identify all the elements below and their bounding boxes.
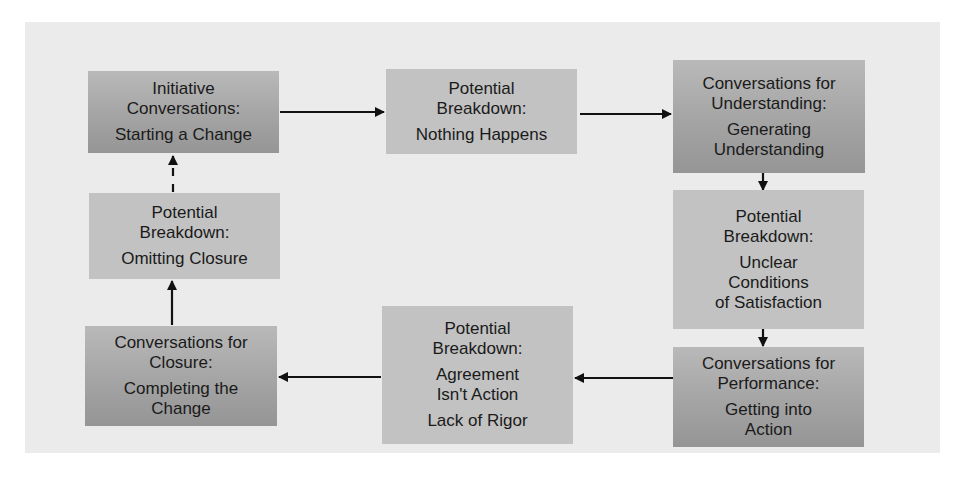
node-subtitle: Agreement — [436, 365, 519, 385]
node-subtitle: Change — [124, 399, 238, 419]
node-conversations-for-performance: Conversations for Performance: Getting i… — [673, 347, 864, 447]
node-title: Potential — [433, 319, 523, 339]
node-subtitle: Generating — [714, 120, 825, 140]
node-title: Performance: — [702, 374, 835, 394]
node-title: Breakdown: — [437, 99, 527, 119]
node-initiative-conversations: Initiative Conversations: Starting a Cha… — [88, 71, 279, 153]
node-title: Conversations: — [127, 99, 240, 119]
node-breakdown-omitting-closure: Potential Breakdown: Omitting Closure — [89, 193, 280, 279]
node-title: Conversations for — [702, 354, 835, 374]
node-conversations-for-closure: Conversations for Closure: Completing th… — [85, 326, 277, 426]
node-subtitle: Completing the — [124, 379, 238, 399]
node-title: Potential — [437, 79, 527, 99]
node-title: Conversations for — [702, 74, 835, 94]
node-subtitle: Isn't Action — [436, 385, 519, 405]
node-subtitle: Nothing Happens — [416, 125, 547, 145]
node-subtitle: Action — [725, 420, 812, 440]
node-title: Breakdown: — [724, 227, 814, 247]
node-subtitle: Understanding — [714, 140, 825, 160]
node-title: Potential — [140, 203, 230, 223]
node-title: Breakdown: — [433, 339, 523, 359]
node-subtitle: of Satisfaction — [715, 293, 822, 313]
node-breakdown-nothing-happens: Potential Breakdown: Nothing Happens — [386, 69, 577, 154]
node-title: Conversations for — [114, 333, 247, 353]
node-subtitle: Getting into — [725, 400, 812, 420]
node-subtitle: Starting a Change — [115, 125, 252, 145]
node-subtitle: Conditions — [715, 273, 822, 293]
node-subtitle: Lack of Rigor — [427, 411, 527, 431]
node-subtitle: Unclear — [715, 253, 822, 273]
node-title: Understanding: — [702, 94, 835, 114]
node-title: Initiative — [127, 79, 240, 99]
node-title: Potential — [724, 207, 814, 227]
node-breakdown-unclear-conditions: Potential Breakdown: Unclear Conditions … — [673, 190, 864, 329]
node-subtitle: Omitting Closure — [121, 249, 248, 269]
node-title: Breakdown: — [140, 223, 230, 243]
node-breakdown-agreement-isnt-action: Potential Breakdown: Agreement Isn't Act… — [382, 306, 573, 444]
node-title: Closure: — [114, 353, 247, 373]
node-conversations-for-understanding: Conversations for Understanding: Generat… — [673, 60, 865, 173]
